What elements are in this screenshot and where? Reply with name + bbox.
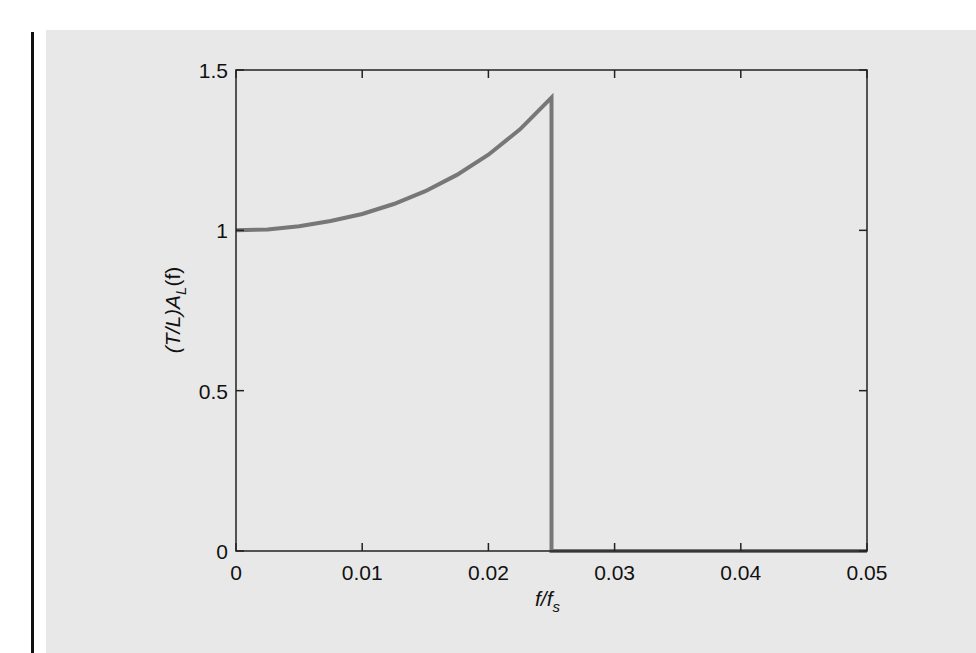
y-tick-label: 1.5 [199,59,228,82]
x-axis-tick-labels: 00.010.020.030.040.05 [230,561,887,584]
x-tick-label: 0.04 [720,561,761,584]
data-series-line [236,98,867,551]
y-tick-label: 0.5 [199,380,228,403]
y-tick-label: 1 [216,219,228,242]
x-axis-label: f/fs [535,587,561,615]
series-polyline [236,98,867,551]
x-tick-label: 0.05 [847,561,888,584]
x-tick-label: 0.02 [468,561,509,584]
x-tick-label: 0 [230,561,242,584]
y-axis-label: (T/L)AL(f) [161,267,189,354]
line-chart: 00.010.020.030.040.05 00.511.5 f/fs (T/L… [0,0,976,653]
x-tick-label: 0.03 [594,561,635,584]
y-tick-label: 0 [216,540,228,563]
y-axis-tick-labels: 00.511.5 [199,59,228,563]
x-tick-label: 0.01 [342,561,383,584]
